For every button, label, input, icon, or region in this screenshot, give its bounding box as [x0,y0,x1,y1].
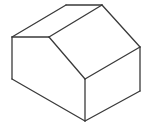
prism-edges [12,5,140,121]
edge-left_eave_bottom-to-front_corner_bottom [12,79,85,121]
edge-front_corner_top-to-right_eave_top [85,47,140,79]
edge-ridge_front_right-to-right_eave_top [102,5,140,47]
edge-front_corner_bottom-to-right_eave_bottom [85,91,140,121]
house-prism-diagram [0,0,147,126]
edge-inner_eave-to-front_corner_top [49,37,85,79]
